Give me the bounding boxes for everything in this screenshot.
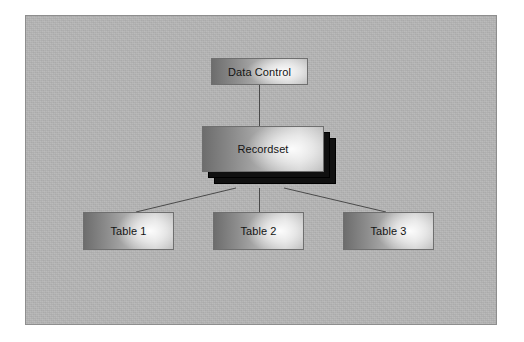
node-table-3[interactable]: Table 3: [343, 212, 434, 250]
node-recordset-label: Recordset: [237, 143, 288, 155]
diagram-frame: Data Control Recordset Table 1 Table 2 T…: [25, 15, 497, 325]
node-table-1[interactable]: Table 1: [83, 212, 174, 250]
node-data-control[interactable]: Data Control: [211, 58, 308, 85]
node-table-2[interactable]: Table 2: [213, 212, 304, 250]
node-recordset[interactable]: Recordset: [202, 126, 324, 172]
connector-recordset-to-table-1: [136, 188, 236, 212]
node-recordset-stack[interactable]: Recordset: [202, 126, 336, 188]
node-table-1-label: Table 1: [110, 225, 146, 237]
node-table-2-label: Table 2: [240, 225, 276, 237]
node-data-control-label: Data Control: [228, 66, 291, 78]
node-table-3-label: Table 3: [370, 225, 406, 237]
screenshot-canvas: Data Control Recordset Table 1 Table 2 T…: [0, 0, 524, 342]
connector-recordset-to-table-3: [284, 188, 386, 212]
